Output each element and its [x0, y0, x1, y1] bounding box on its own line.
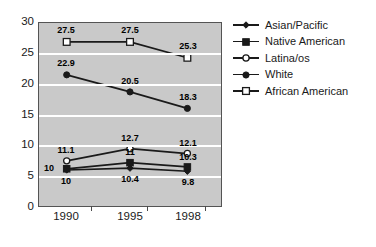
- data-point-label: 11: [113, 148, 147, 157]
- data-point-marker: [127, 89, 133, 95]
- x-tick-label: 1995: [110, 211, 150, 223]
- data-point-label: 27.5: [113, 26, 147, 35]
- y-tick-label: 15: [4, 109, 34, 121]
- data-point-label: 20.5: [113, 77, 147, 86]
- legend-symbol: [239, 51, 253, 65]
- data-point-label: 11.1: [49, 146, 83, 155]
- data-point-label: 9.8: [171, 178, 205, 187]
- data-point-marker: [184, 164, 191, 171]
- data-point-marker: [64, 72, 70, 78]
- legend-item-white: White: [233, 67, 376, 84]
- legend-symbol: [239, 68, 253, 82]
- gridline: [39, 53, 221, 55]
- legend-label: Asian/Pacific: [259, 20, 328, 31]
- legend-marker-icon: [233, 84, 259, 98]
- data-point-label: 25.3: [171, 42, 205, 51]
- legend-marker-icon: [233, 68, 259, 82]
- x-tick-label: 1990: [46, 211, 86, 223]
- legend-label: Latina/os: [259, 53, 310, 64]
- legend-marker-icon: [233, 18, 259, 32]
- legend-symbol: [239, 35, 253, 49]
- legend-item-latina-os: Latina/os: [233, 50, 376, 67]
- y-tick-label: 25: [4, 47, 34, 59]
- data-point-label: 27.5: [49, 26, 83, 35]
- data-point-label: 18.3: [171, 93, 205, 102]
- y-tick-label: 0: [4, 201, 34, 213]
- data-point-marker: [64, 158, 70, 164]
- data-point-marker: [127, 159, 134, 166]
- data-point-marker: [63, 39, 70, 46]
- data-point-marker: [184, 105, 190, 111]
- legend-label: African American: [259, 86, 348, 97]
- legend-marker-icon: [233, 51, 259, 65]
- y-tick-label: 10: [4, 139, 34, 151]
- data-point-label: 12.7: [113, 134, 147, 143]
- legend-item-african-american: African American: [233, 83, 376, 100]
- y-axis: 302520151050: [0, 0, 34, 247]
- legend-symbol: [239, 84, 253, 98]
- data-point-label: 10.4: [113, 175, 147, 184]
- y-tick-label: 30: [4, 16, 34, 28]
- gridline: [39, 115, 221, 117]
- chart-figure: 302520151050 199019951998 1010.49.810111…: [0, 0, 376, 247]
- y-tick-label: 20: [4, 78, 34, 90]
- x-tick-label: 1998: [168, 211, 208, 223]
- data-point-label: 12.1: [171, 139, 205, 148]
- data-point-marker: [184, 54, 191, 61]
- legend-symbol: [239, 18, 253, 32]
- y-tick-label: 5: [4, 170, 34, 182]
- x-axis-tick: [91, 206, 92, 211]
- data-point-label: 10: [32, 164, 66, 173]
- legend-label: Native American: [259, 36, 345, 47]
- chart-legend: Asian/PacificNative AmericanLatina/osWhi…: [233, 17, 376, 100]
- legend-label: White: [259, 69, 293, 80]
- data-point-label: 10: [49, 177, 83, 186]
- legend-item-native-american: Native American: [233, 34, 376, 51]
- data-point-marker: [127, 39, 134, 46]
- data-point-label: 10.3: [171, 153, 205, 162]
- legend-item-asian-pacific: Asian/Pacific: [233, 17, 376, 34]
- data-point-label: 22.9: [49, 59, 83, 68]
- legend-marker-icon: [233, 35, 259, 49]
